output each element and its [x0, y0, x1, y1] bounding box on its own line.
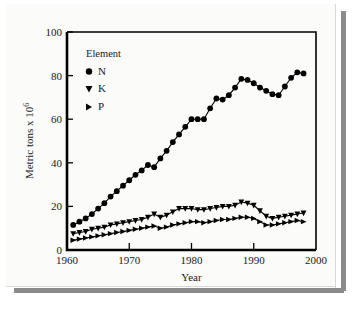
- filled-triangle-right-marker: [151, 223, 157, 228]
- svg-text:Metric tons x 106: Metric tons x 106: [22, 103, 35, 179]
- filled-triangle-down-marker-icon: [86, 86, 93, 93]
- filled-circle-marker: [101, 200, 107, 206]
- filled-circle-marker: [238, 76, 244, 82]
- filled-circle-marker: [195, 116, 201, 122]
- legend-entry-n[interactable]: N: [86, 65, 106, 77]
- x-axis-title: Year: [181, 271, 202, 283]
- legend-entry-k[interactable]: K: [86, 82, 107, 94]
- y-tick-label-80: 80: [51, 70, 63, 82]
- filled-triangle-right-marker: [220, 217, 226, 222]
- y-axis-title-exponent: 6: [22, 103, 31, 107]
- filled-circle-marker: [133, 172, 139, 178]
- filled-circle-marker: [164, 148, 170, 154]
- series-line-k: [73, 202, 303, 234]
- chart-svg: 100 80 60 40 20 0 1960 1970 1980 1990 20…: [0, 0, 360, 317]
- filled-circle-marker: [245, 77, 251, 83]
- filled-circle-marker: [182, 124, 188, 130]
- filled-triangle-right-marker: [239, 215, 245, 220]
- filled-circle-marker: [77, 219, 83, 225]
- filled-circle-marker: [151, 164, 157, 170]
- filled-triangle-right-marker: [195, 219, 201, 224]
- filled-triangle-right-marker: [189, 219, 195, 224]
- filled-triangle-right-marker: [214, 218, 220, 223]
- filled-circle-marker: [108, 194, 114, 200]
- legend: Element N K P: [86, 48, 122, 112]
- filled-circle-marker: [114, 188, 120, 194]
- filled-triangle-right-marker: [71, 237, 77, 242]
- filled-triangle-right-marker: [232, 216, 238, 221]
- y-tick-label-40: 40: [51, 157, 63, 169]
- filled-triangle-right-marker: [164, 224, 170, 229]
- filled-circle-marker: [95, 206, 101, 212]
- filled-circle-marker: [270, 91, 276, 97]
- filled-circle-marker: [83, 215, 89, 221]
- filled-triangle-right-marker: [83, 235, 89, 240]
- x-tick-label-1960: 1960: [56, 254, 79, 266]
- filled-triangle-right-marker: [270, 222, 276, 227]
- legend-label-p: P: [98, 100, 104, 112]
- filled-triangle-down-marker: [270, 216, 276, 222]
- x-tick-label-2000: 2000: [305, 254, 328, 266]
- filled-circle-marker: [301, 71, 307, 77]
- filled-triangle-right-marker: [276, 221, 282, 226]
- legend-title: Element: [86, 48, 121, 59]
- filled-circle-marker: [220, 97, 226, 103]
- filled-triangle-right-marker: [207, 219, 213, 224]
- filled-triangle-right-marker: [95, 233, 101, 238]
- filled-triangle-right-marker: [120, 229, 126, 234]
- filled-circle-marker: [189, 116, 195, 122]
- data-series-layer: [70, 69, 306, 242]
- filled-triangle-down-marker: [170, 209, 176, 215]
- filled-triangle-right-marker: [301, 219, 307, 224]
- filled-triangle-right-marker: [288, 219, 294, 224]
- filled-triangle-right-marker: [127, 228, 133, 233]
- filled-circle-marker: [145, 162, 151, 168]
- legend-label-k: K: [98, 82, 106, 94]
- filled-triangle-right-marker: [251, 216, 257, 221]
- x-tick-label-1990: 1990: [243, 254, 266, 266]
- filled-circle-marker: [214, 96, 220, 102]
- filled-triangle-right-marker-icon: [86, 104, 92, 111]
- filled-triangle-right-marker: [114, 230, 120, 235]
- filled-circle-marker: [157, 156, 163, 162]
- filled-circle-marker: [257, 85, 263, 91]
- filled-circle-marker: [232, 85, 238, 91]
- y-axis-title: Metric tons x 106: [22, 103, 35, 179]
- series-line-n: [73, 72, 303, 225]
- filled-circle-marker: [120, 183, 126, 189]
- filled-triangle-right-marker: [295, 218, 301, 223]
- filled-circle-marker: [139, 168, 145, 174]
- filled-triangle-right-marker: [176, 221, 182, 226]
- filled-triangle-down-marker: [70, 231, 76, 237]
- filled-triangle-right-marker: [257, 219, 263, 224]
- filled-circle-marker: [126, 177, 132, 183]
- y-tick-label-60: 60: [51, 113, 63, 125]
- filled-triangle-right-marker: [108, 231, 114, 236]
- y-tick-label-100: 100: [46, 26, 63, 38]
- y-axis-tick-labels: 100 80 60 40 20 0: [46, 26, 63, 256]
- y-axis-title-main: Metric tons x 10: [23, 106, 35, 179]
- filled-triangle-down-marker: [151, 212, 157, 218]
- line-chart: 100 80 60 40 20 0 1960 1970 1980 1990 20…: [0, 0, 360, 317]
- filled-triangle-right-marker: [226, 217, 232, 222]
- legend-entry-p[interactable]: P: [86, 100, 104, 112]
- figure-page: 100 80 60 40 20 0 1960 1970 1980 1990 20…: [0, 0, 360, 317]
- filled-circle-marker: [251, 80, 257, 86]
- filled-circle-marker: [201, 116, 207, 122]
- filled-triangle-right-marker: [158, 226, 164, 231]
- filled-circle-marker: [276, 92, 282, 98]
- filled-circle-marker: [282, 84, 288, 90]
- filled-circle-marker: [89, 211, 95, 217]
- filled-triangle-right-marker: [183, 220, 189, 225]
- filled-circle-marker: [294, 69, 300, 75]
- filled-circle-marker: [70, 222, 76, 228]
- filled-triangle-down-marker: [157, 215, 163, 221]
- y-tick-label-20: 20: [51, 200, 63, 212]
- x-tick-label-1970: 1970: [118, 254, 141, 266]
- filled-triangle-right-marker: [102, 232, 108, 237]
- filled-triangle-right-marker: [145, 224, 151, 229]
- filled-triangle-right-marker: [282, 220, 288, 225]
- x-axis-tick-labels: 1960 1970 1980 1990 2000: [56, 254, 328, 266]
- x-tick-label-1980: 1980: [181, 254, 204, 266]
- filled-triangle-right-marker: [245, 215, 251, 220]
